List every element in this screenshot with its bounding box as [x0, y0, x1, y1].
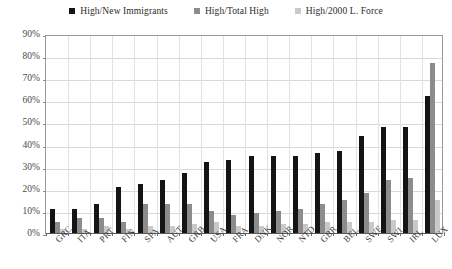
y-axis-tick-label: 70% — [0, 74, 40, 84]
plot-area — [45, 35, 443, 234]
y-axis-tick-label: 40% — [0, 141, 40, 151]
bar-group — [245, 36, 267, 233]
bar-group — [333, 36, 355, 233]
bar-chart: High/New ImmigrantsHigh/Total HighHigh/2… — [0, 0, 452, 269]
y-axis-tick-label: 90% — [0, 30, 40, 40]
bar-group — [157, 36, 179, 233]
bar-group — [46, 36, 68, 233]
bar-group — [400, 36, 422, 233]
bar-group — [422, 36, 444, 233]
bar-group — [112, 36, 134, 233]
bar-group — [223, 36, 245, 233]
y-axis-tick-label: 60% — [0, 96, 40, 106]
legend-label: High/New Immigrants — [80, 6, 168, 16]
chart-legend: High/New ImmigrantsHigh/Total HighHigh/2… — [0, 6, 452, 16]
bar-group — [68, 36, 90, 233]
y-axis-tick-label: 80% — [0, 52, 40, 62]
legend-swatch-icon — [295, 8, 301, 14]
legend-label: High/Total High — [205, 6, 269, 16]
bar-group — [90, 36, 112, 233]
legend-label: High/2000 L. Force — [306, 6, 383, 16]
bar-group — [311, 36, 333, 233]
bar-group — [134, 36, 156, 233]
bar-group — [201, 36, 223, 233]
legend-swatch-icon — [194, 8, 200, 14]
bars-layer — [46, 36, 442, 233]
y-axis-tick-label: 20% — [0, 185, 40, 195]
y-axis-tick-label: 0% — [0, 229, 40, 239]
y-axis-tick-label: 30% — [0, 163, 40, 173]
bar-group — [179, 36, 201, 233]
bar-group — [378, 36, 400, 233]
legend-swatch-icon — [69, 8, 75, 14]
legend-entry: High/New Immigrants — [69, 6, 168, 16]
y-axis-tick-label: 50% — [0, 118, 40, 128]
y-axis-tick-label: 10% — [0, 207, 40, 217]
bar-group — [267, 36, 289, 233]
legend-entry: High/Total High — [194, 6, 269, 16]
bar-group — [289, 36, 311, 233]
x-axis-tick-mark — [46, 233, 47, 236]
legend-entry: High/2000 L. Force — [295, 6, 383, 16]
bar-group — [356, 36, 378, 233]
